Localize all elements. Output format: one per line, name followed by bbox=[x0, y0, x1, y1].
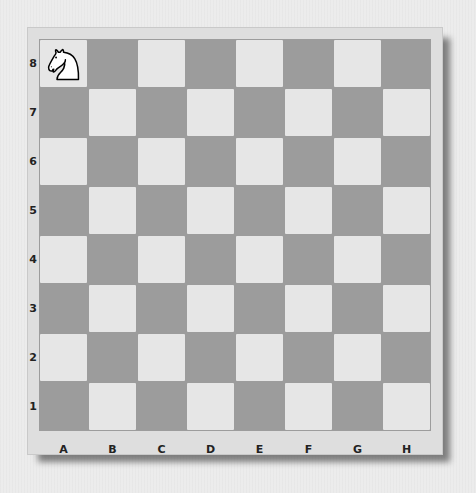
rank-label-4: 4 bbox=[28, 253, 38, 266]
square-d2[interactable] bbox=[186, 333, 235, 382]
square-a3[interactable] bbox=[39, 284, 88, 333]
file-label-g: G bbox=[333, 443, 382, 456]
square-d8[interactable] bbox=[186, 39, 235, 88]
square-d1[interactable] bbox=[187, 383, 234, 430]
file-label-d: D bbox=[186, 443, 235, 456]
square-a5[interactable] bbox=[39, 186, 88, 235]
rank-label-2: 2 bbox=[28, 351, 38, 364]
square-b6[interactable] bbox=[88, 137, 137, 186]
square-h4[interactable] bbox=[382, 235, 431, 284]
square-e3[interactable] bbox=[235, 284, 284, 333]
rank-label-5: 5 bbox=[28, 204, 38, 217]
rank-label-3: 3 bbox=[28, 302, 38, 315]
square-f7[interactable] bbox=[285, 89, 332, 136]
square-f1[interactable] bbox=[285, 383, 332, 430]
square-c3[interactable] bbox=[137, 284, 186, 333]
square-b3[interactable] bbox=[89, 285, 136, 332]
square-f6[interactable] bbox=[284, 137, 333, 186]
square-b5[interactable] bbox=[89, 187, 136, 234]
square-h2[interactable] bbox=[382, 333, 431, 382]
rank-label-6: 6 bbox=[28, 155, 38, 168]
square-h6[interactable] bbox=[382, 137, 431, 186]
square-f3[interactable] bbox=[285, 285, 332, 332]
square-h8[interactable] bbox=[382, 39, 431, 88]
chess-board[interactable] bbox=[39, 39, 431, 431]
square-d7[interactable] bbox=[187, 89, 234, 136]
square-g8[interactable] bbox=[334, 40, 381, 87]
square-f4[interactable] bbox=[284, 235, 333, 284]
square-g1[interactable] bbox=[333, 382, 382, 431]
square-f2[interactable] bbox=[284, 333, 333, 382]
square-g2[interactable] bbox=[334, 334, 381, 381]
rank-label-1: 1 bbox=[28, 400, 38, 413]
square-c4[interactable] bbox=[138, 236, 185, 283]
square-d4[interactable] bbox=[186, 235, 235, 284]
file-label-c: C bbox=[137, 443, 186, 456]
square-c6[interactable] bbox=[138, 138, 185, 185]
square-a8[interactable] bbox=[40, 40, 87, 87]
square-b1[interactable] bbox=[89, 383, 136, 430]
square-g5[interactable] bbox=[333, 186, 382, 235]
square-e8[interactable] bbox=[236, 40, 283, 87]
square-c5[interactable] bbox=[137, 186, 186, 235]
square-e6[interactable] bbox=[236, 138, 283, 185]
white-knight-icon[interactable] bbox=[43, 43, 85, 85]
square-g4[interactable] bbox=[334, 236, 381, 283]
square-e4[interactable] bbox=[236, 236, 283, 283]
square-d5[interactable] bbox=[187, 187, 234, 234]
square-a2[interactable] bbox=[40, 334, 87, 381]
file-label-a: A bbox=[39, 443, 88, 456]
square-g6[interactable] bbox=[334, 138, 381, 185]
square-h5[interactable] bbox=[383, 187, 430, 234]
square-e1[interactable] bbox=[235, 382, 284, 431]
square-b4[interactable] bbox=[88, 235, 137, 284]
square-c2[interactable] bbox=[138, 334, 185, 381]
file-label-f: F bbox=[284, 443, 333, 456]
square-a4[interactable] bbox=[40, 236, 87, 283]
square-h3[interactable] bbox=[383, 285, 430, 332]
square-a7[interactable] bbox=[39, 88, 88, 137]
square-a1[interactable] bbox=[39, 382, 88, 431]
square-e2[interactable] bbox=[236, 334, 283, 381]
square-c8[interactable] bbox=[138, 40, 185, 87]
rank-label-7: 7 bbox=[28, 106, 38, 119]
file-label-h: H bbox=[382, 443, 431, 456]
square-a6[interactable] bbox=[40, 138, 87, 185]
square-c7[interactable] bbox=[137, 88, 186, 137]
square-g7[interactable] bbox=[333, 88, 382, 137]
square-g3[interactable] bbox=[333, 284, 382, 333]
square-b2[interactable] bbox=[88, 333, 137, 382]
file-label-b: B bbox=[88, 443, 137, 456]
rank-label-8: 8 bbox=[28, 57, 38, 70]
square-e5[interactable] bbox=[235, 186, 284, 235]
square-c1[interactable] bbox=[137, 382, 186, 431]
square-h1[interactable] bbox=[383, 383, 430, 430]
square-b7[interactable] bbox=[89, 89, 136, 136]
square-f8[interactable] bbox=[284, 39, 333, 88]
square-d6[interactable] bbox=[186, 137, 235, 186]
square-e7[interactable] bbox=[235, 88, 284, 137]
file-label-e: E bbox=[235, 443, 284, 456]
square-b8[interactable] bbox=[88, 39, 137, 88]
square-h7[interactable] bbox=[383, 89, 430, 136]
square-d3[interactable] bbox=[187, 285, 234, 332]
square-f5[interactable] bbox=[285, 187, 332, 234]
